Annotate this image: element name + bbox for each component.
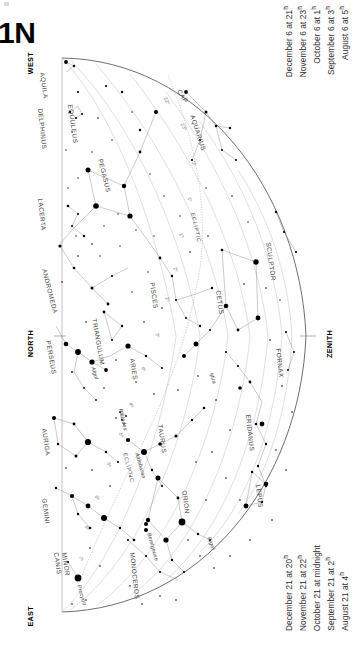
- legend-hour: 3: [326, 10, 336, 15]
- date-legend-top: December 6 at 21h November 6 at 23h Octo…: [281, 6, 351, 77]
- legend-line: September 21 at 2h: [323, 557, 337, 631]
- legend-hour-sup: h: [309, 6, 316, 10]
- legend-date: August 6 at: [340, 17, 350, 60]
- star-chart-page: 1N: [0, 0, 355, 669]
- legend-date: October 21 at: [312, 579, 322, 631]
- ra-hour-label: 6ʰ: [94, 495, 101, 501]
- legend-line: August 6 at 5h: [337, 6, 351, 60]
- ra-hour-label: 7ʰ: [78, 556, 85, 561]
- ra-hour-label: 5ʰ: [106, 462, 113, 468]
- legend-line: August 21 at 4h: [337, 572, 351, 631]
- legend-hour-sup: h: [323, 557, 330, 561]
- ra-hour-label: 4ʰ: [128, 402, 135, 408]
- legend-hour-sup: h: [281, 6, 288, 10]
- ra-hour-label: 6ʰ: [84, 525, 91, 530]
- legend-line: September 6 at 3h: [323, 6, 337, 75]
- cardinal-label-west: WEST: [26, 52, 35, 74]
- legend-hour: midnight: [312, 545, 322, 577]
- legend-line: October 21 at midnight: [309, 545, 323, 631]
- legend-hour: 21: [284, 10, 294, 19]
- legend-hour-sup: h: [323, 6, 330, 10]
- legend-hour: 4: [340, 576, 350, 581]
- legend-date: August 21 at: [340, 583, 350, 631]
- legend-hour-sup: h: [337, 572, 344, 576]
- stars: [52, 60, 297, 605]
- legend-hour: 5: [340, 10, 350, 15]
- legend-line: December 21 at 20h: [281, 555, 295, 631]
- ra-hour-label: 5ʰ: [118, 432, 125, 438]
- date-legend-bottom: December 21 at 20h November 21 at 22h Oc…: [281, 545, 351, 631]
- legend-date: September 21 at: [326, 568, 336, 631]
- ra-hour-label: 4ʰ: [140, 366, 147, 372]
- legend-line: December 6 at 21h: [281, 6, 295, 77]
- legend-hour: 2: [326, 561, 336, 566]
- legend-hour: 20: [284, 559, 294, 568]
- legend-date: December 6 at: [284, 22, 294, 78]
- legend-line: October 6 at 1h: [309, 6, 323, 64]
- legend-hour: 22: [298, 559, 308, 568]
- legend-line: November 21 at 22h: [295, 555, 309, 631]
- legend-hour: 1: [312, 10, 322, 15]
- legend-line: November 6 at 23h: [295, 6, 309, 77]
- cardinal-label-north: NORTH: [26, 330, 35, 357]
- legend-hour-sup: h: [295, 6, 302, 10]
- zenith-label: ZENITH: [325, 330, 334, 358]
- legend-hour-sup: h: [281, 555, 288, 559]
- legend-hour-sup: h: [337, 6, 344, 10]
- legend-date: November 6 at: [298, 22, 308, 78]
- legend-date: December 21 at: [284, 571, 294, 631]
- legend-date: October 6 at: [312, 17, 322, 64]
- legend-date: November 21 at: [298, 571, 308, 631]
- legend-hour: 23: [298, 10, 308, 19]
- legend-hour-sup: h: [295, 555, 302, 559]
- legend-date: September 6 at: [326, 17, 336, 75]
- cardinal-label-east: EAST: [26, 606, 35, 627]
